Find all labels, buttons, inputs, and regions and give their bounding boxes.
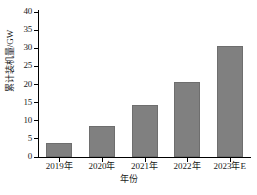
x-axis-title: 年份	[0, 174, 257, 185]
bar	[174, 82, 200, 157]
bar	[217, 46, 243, 157]
bar	[89, 126, 115, 157]
y-axis-tick-label: 5	[6, 134, 32, 143]
bar	[132, 105, 158, 157]
x-axis-tick-label: 2023年E	[204, 161, 256, 172]
y-axis-tick-label: 0	[6, 152, 32, 161]
bar	[46, 143, 72, 157]
bar-chart-figure: 0510152025303540 2019年2020年2021年2022年202…	[0, 0, 257, 195]
y-axis-title: 累计装机量/GW	[5, 0, 15, 126]
plot-area	[38, 12, 251, 157]
